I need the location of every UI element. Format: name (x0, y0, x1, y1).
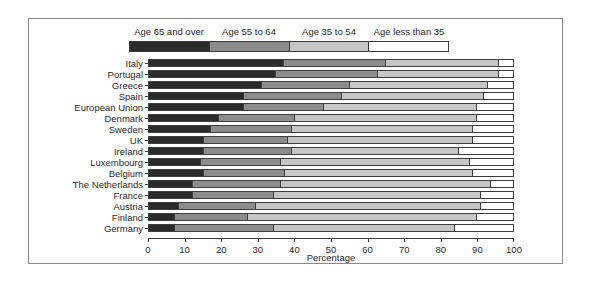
bar-row: Ireland (148, 147, 514, 155)
bar-segment (377, 71, 497, 77)
bar-row: Spain (148, 92, 514, 100)
bar-segment (275, 71, 377, 77)
bar-row: Austria (148, 202, 514, 210)
bar-segment (261, 82, 349, 88)
bar-segment (149, 71, 275, 77)
x-axis-tick (258, 238, 259, 242)
bar-segment (498, 60, 513, 66)
bar-segment (149, 170, 203, 176)
x-axis-tick (441, 238, 442, 242)
plot-area: ItalyPortugalGreeceSpainEuropean UnionDe… (148, 57, 514, 234)
bar-segment (273, 225, 455, 231)
bar-segment (483, 93, 513, 99)
bar-segment (192, 181, 280, 187)
y-axis-tick (145, 85, 149, 86)
bar-segment (210, 126, 290, 132)
bar-segment (280, 159, 469, 165)
y-axis-label-14: Finland (112, 214, 143, 222)
y-axis-label-10: Belgium (109, 170, 143, 178)
bar-segment (174, 225, 272, 231)
y-axis-tick (145, 107, 149, 108)
bar-segment (283, 60, 385, 66)
x-axis: 0102030405060708090100 (148, 238, 514, 239)
y-axis-tick (145, 118, 149, 119)
bar-segment (200, 159, 280, 165)
bar-segment (294, 115, 476, 121)
x-axis-tick (331, 238, 332, 242)
bar-row: Luxembourg (148, 158, 514, 166)
bar-segment (192, 192, 272, 198)
bar-segment (149, 181, 192, 187)
x-axis-tick (513, 238, 514, 242)
legend-swatch-3 (368, 42, 448, 51)
y-axis-label-0: Italy (126, 60, 143, 68)
bar-row: Denmark (148, 114, 514, 122)
bar-segment (498, 71, 513, 77)
bar-segment (472, 126, 513, 132)
bar-row: The Netherlands (148, 180, 514, 188)
y-axis-tick (145, 206, 149, 207)
y-axis-label-1: Portugal (108, 71, 143, 79)
y-axis-label-7: UK (130, 137, 143, 145)
y-axis-tick (145, 228, 149, 229)
bar-row: Germany (148, 224, 514, 232)
bar-segment (476, 115, 513, 121)
bar-segment (174, 214, 247, 220)
bar-row: UK (148, 136, 514, 144)
y-axis-tick (145, 217, 149, 218)
bar-segment (149, 203, 178, 209)
bar-segment (255, 203, 480, 209)
legend-label-3: Age less than 35 (369, 26, 449, 40)
bar-segment (469, 159, 513, 165)
y-axis-label-13: Austria (113, 203, 143, 211)
bar-segment (287, 137, 472, 143)
y-axis-tick (145, 162, 149, 163)
y-axis-label-4: European Union (74, 104, 143, 112)
bar-segment (349, 82, 487, 88)
legend-label-2: Age 35 to 54 (289, 26, 369, 40)
y-axis-tick (145, 151, 149, 152)
bar-segment (149, 137, 203, 143)
bar-segment (476, 104, 513, 110)
bar-segment (203, 137, 287, 143)
x-axis-tick (477, 238, 478, 242)
bar-segment (385, 60, 498, 66)
bar-segment (149, 82, 261, 88)
bar-segment (149, 225, 174, 231)
bar-segment (149, 93, 243, 99)
bar-row: France (148, 191, 514, 199)
bar-segment (149, 214, 174, 220)
x-axis-tick (148, 238, 149, 242)
y-axis-tick (145, 129, 149, 130)
y-axis-label-6: Sweden (109, 126, 143, 134)
bar-segment (273, 192, 480, 198)
y-axis-tick (145, 195, 149, 196)
bar-segment (149, 104, 243, 110)
bar-segment (487, 82, 513, 88)
x-axis-tick (185, 238, 186, 242)
x-axis-tick (404, 238, 405, 242)
bar-segment (149, 192, 192, 198)
bar-segment (247, 214, 475, 220)
bar-segment (341, 93, 483, 99)
bar-segment (149, 126, 210, 132)
y-axis-label-8: Ireland (114, 148, 143, 156)
legend-label-1: Age 55 to 64 (209, 26, 289, 40)
legend-labels: Age 65 and overAge 55 to 64Age 35 to 54A… (129, 26, 449, 40)
bar-segment (476, 214, 513, 220)
y-axis-label-11: The Netherlands (73, 181, 143, 189)
bar-segment (291, 126, 473, 132)
y-axis-tick (145, 184, 149, 185)
bar-segment (218, 115, 295, 121)
y-axis-tick (145, 140, 149, 141)
legend-swatch-2 (289, 42, 369, 51)
bar-row: Greece (148, 81, 514, 89)
x-axis-tick (368, 238, 369, 242)
bars-container: ItalyPortugalGreeceSpainEuropean UnionDe… (148, 57, 514, 234)
bar-segment (472, 137, 513, 143)
bar-segment (284, 170, 473, 176)
bar-segment (280, 181, 490, 187)
bar-segment (243, 93, 341, 99)
bar-segment (291, 148, 458, 154)
bar-segment (490, 181, 513, 187)
